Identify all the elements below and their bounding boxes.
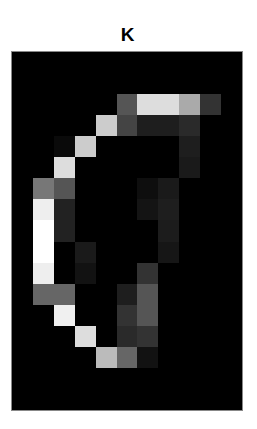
pixel-cell bbox=[179, 220, 200, 241]
pixel-cell bbox=[33, 326, 54, 347]
pixel-cell bbox=[12, 52, 33, 73]
pixel-cell bbox=[158, 326, 179, 347]
pixel-cell bbox=[75, 242, 96, 263]
pixel-cell bbox=[75, 115, 96, 136]
pixel-cell bbox=[158, 242, 179, 263]
pixel-cell bbox=[221, 157, 242, 178]
pixel-cell bbox=[54, 73, 75, 94]
pixel-cell bbox=[221, 242, 242, 263]
pixel-cell bbox=[54, 389, 75, 410]
pixel-cell bbox=[75, 157, 96, 178]
pixel-cell bbox=[54, 326, 75, 347]
pixel-cell bbox=[137, 326, 158, 347]
pixel-cell bbox=[158, 73, 179, 94]
pixel-cell bbox=[137, 389, 158, 410]
pixel-cell bbox=[33, 368, 54, 389]
pixel-cell bbox=[158, 305, 179, 326]
pixel-cell bbox=[117, 368, 138, 389]
pixel-cell bbox=[12, 305, 33, 326]
pixel-cell bbox=[179, 242, 200, 263]
pixel-cell bbox=[117, 326, 138, 347]
pixel-cell bbox=[96, 389, 117, 410]
pixel-cell bbox=[54, 199, 75, 220]
pixel-cell bbox=[96, 178, 117, 199]
pixel-cell bbox=[96, 326, 117, 347]
pixel-cell bbox=[12, 94, 33, 115]
pixel-cell bbox=[54, 94, 75, 115]
pixel-cell bbox=[200, 136, 221, 157]
pixel-cell bbox=[33, 73, 54, 94]
pixel-cell bbox=[200, 263, 221, 284]
pixel-cell bbox=[200, 115, 221, 136]
pixel-cell bbox=[33, 263, 54, 284]
pixel-cell bbox=[158, 347, 179, 368]
pixel-cell bbox=[179, 73, 200, 94]
pixel-cell bbox=[54, 305, 75, 326]
pixel-cell bbox=[137, 263, 158, 284]
pixel-cell bbox=[33, 347, 54, 368]
pixel-cell bbox=[200, 157, 221, 178]
pixel-cell bbox=[96, 284, 117, 305]
pixel-cell bbox=[75, 52, 96, 73]
pixel-cell bbox=[200, 389, 221, 410]
pixel-cell bbox=[117, 220, 138, 241]
pixel-cell bbox=[117, 263, 138, 284]
pixel-cell bbox=[179, 368, 200, 389]
pixel-cell bbox=[137, 199, 158, 220]
pixel-cell bbox=[96, 115, 117, 136]
pixel-cell bbox=[158, 284, 179, 305]
pixel-cell bbox=[54, 220, 75, 241]
pixel-cell bbox=[117, 178, 138, 199]
pixel-cell bbox=[12, 220, 33, 241]
pixel-cell bbox=[158, 136, 179, 157]
pixel-cell bbox=[117, 136, 138, 157]
pixel-cell bbox=[54, 263, 75, 284]
pixel-cell bbox=[137, 368, 158, 389]
pixel-cell bbox=[179, 157, 200, 178]
pixel-cell bbox=[12, 73, 33, 94]
pixel-cell bbox=[12, 157, 33, 178]
pixel-cell bbox=[179, 347, 200, 368]
pixel-cell bbox=[75, 220, 96, 241]
pixel-cell bbox=[12, 242, 33, 263]
pixel-cell bbox=[117, 115, 138, 136]
pixel-cell bbox=[54, 347, 75, 368]
pixel-cell bbox=[137, 136, 158, 157]
pixel-cell bbox=[96, 157, 117, 178]
pixel-cell bbox=[137, 157, 158, 178]
pixel-cell bbox=[75, 368, 96, 389]
pixel-cell bbox=[12, 347, 33, 368]
pixel-cell bbox=[179, 389, 200, 410]
pixel-cell bbox=[158, 368, 179, 389]
pixel-cell bbox=[75, 284, 96, 305]
pixel-cell bbox=[137, 347, 158, 368]
pixel-cell bbox=[137, 52, 158, 73]
pixel-cell bbox=[137, 284, 158, 305]
pixel-cell bbox=[117, 94, 138, 115]
pixel-cell bbox=[179, 52, 200, 73]
pixel-cell bbox=[117, 242, 138, 263]
pixel-cell bbox=[33, 178, 54, 199]
pixel-cell bbox=[96, 52, 117, 73]
pixel-cell bbox=[221, 115, 242, 136]
pixel-cell bbox=[117, 199, 138, 220]
pixel-cell bbox=[33, 94, 54, 115]
pixel-cell bbox=[179, 305, 200, 326]
pixel-cell bbox=[200, 368, 221, 389]
pixel-cell bbox=[96, 263, 117, 284]
pixel-cell bbox=[75, 136, 96, 157]
pixel-cell bbox=[200, 326, 221, 347]
pixel-cell bbox=[179, 326, 200, 347]
pixel-cell bbox=[221, 389, 242, 410]
pixel-cell bbox=[96, 242, 117, 263]
pixel-cell bbox=[117, 284, 138, 305]
pixel-cell bbox=[12, 284, 33, 305]
pixel-cell bbox=[221, 136, 242, 157]
pixel-cell bbox=[54, 157, 75, 178]
pixel-cell bbox=[179, 199, 200, 220]
pixel-cell bbox=[137, 305, 158, 326]
pixel-cell bbox=[221, 326, 242, 347]
pixel-cell bbox=[33, 389, 54, 410]
pixel-cell bbox=[33, 52, 54, 73]
pixel-cell bbox=[96, 136, 117, 157]
